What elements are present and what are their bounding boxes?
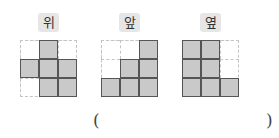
grid-cell-empty (101, 40, 120, 59)
view-front: 앞 (101, 0, 161, 100)
view-label-top: 위 (38, 13, 59, 32)
grid-cell-filled (58, 59, 77, 78)
view-label-front: 앞 (119, 13, 140, 32)
grid-side (182, 40, 239, 97)
grid-cell-empty (20, 78, 39, 97)
grid-cell-empty (20, 40, 39, 59)
answer-blank[interactable] (105, 112, 265, 132)
grid-cell-filled (182, 40, 201, 59)
grid-cell-filled (139, 78, 158, 97)
grid-cell-filled (120, 78, 139, 97)
grid-cell-filled (201, 78, 220, 97)
grid-cell-filled (201, 40, 220, 59)
grid-cell-filled (220, 78, 239, 97)
grid-cell-filled (139, 40, 158, 59)
grid-cell-filled (182, 59, 201, 78)
grid-cell-empty (220, 40, 239, 59)
grid-cell-filled (58, 78, 77, 97)
grid-cell-filled (139, 59, 158, 78)
grid-cell-filled (120, 59, 139, 78)
grid-cell-filled (182, 78, 201, 97)
grid-top (20, 40, 77, 97)
grid-cell-filled (201, 59, 220, 78)
view-side: 옆 (182, 0, 242, 100)
grid-cell-empty (58, 40, 77, 59)
view-top: 위 (20, 0, 80, 100)
answer-close-paren: ) (266, 110, 273, 130)
grid-front (101, 40, 158, 97)
grid-cell-filled (39, 78, 58, 97)
grid-cell-filled (39, 59, 58, 78)
grid-cell-filled (101, 78, 120, 97)
grid-cell-filled (20, 59, 39, 78)
grid-cell-empty (120, 40, 139, 59)
grid-cell-empty (101, 59, 120, 78)
view-label-side: 옆 (200, 13, 221, 32)
answer-open-paren: ( (93, 110, 100, 130)
grid-cell-empty (220, 59, 239, 78)
grid-cell-filled (39, 40, 58, 59)
